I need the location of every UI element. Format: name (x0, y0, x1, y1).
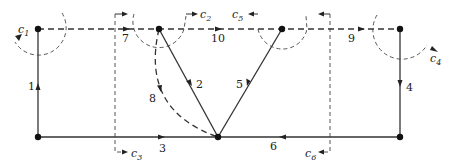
cut-set-arrows (15, 12, 438, 155)
node-4 (397, 26, 403, 32)
cut-c6-top-arrow (318, 12, 324, 17)
arrow-edge-3 (158, 135, 165, 140)
cut-label-c6: c6 (305, 147, 316, 162)
cut-label-c5: c5 (232, 8, 243, 23)
arrow-edge-6 (279, 135, 286, 140)
dashed-edge-arrows (123, 27, 365, 93)
cut-label-c3: c3 (131, 147, 142, 162)
edge-label-8: 8 (149, 92, 156, 105)
edge-label-4: 4 (406, 81, 413, 94)
cut-label-c1: c1 (18, 23, 29, 38)
cut-label-c4: c4 (430, 52, 441, 67)
arrow-edge-9 (358, 27, 365, 32)
node-7 (397, 134, 403, 140)
cut-c6-line (322, 14, 330, 152)
cut-c3-arrow (122, 150, 128, 155)
cut-set-labels: c1 c2 c3 c4 c5 c6 (18, 8, 441, 162)
edge-label-7: 7 (122, 32, 129, 45)
edge-label-1: 1 (28, 80, 35, 93)
dashed-edges (38, 29, 400, 137)
node-5 (35, 134, 41, 140)
cut-label-c2: c2 (200, 8, 211, 23)
arrow-edge-1 (36, 83, 41, 90)
node-1 (35, 26, 41, 32)
edge-label-2: 2 (196, 78, 203, 91)
edge-label-10: 10 (211, 32, 225, 45)
solid-edges (38, 29, 400, 137)
edge-5 (218, 29, 282, 137)
cut-c5-arc (258, 16, 307, 49)
arrow-edge-4 (398, 80, 403, 87)
edge-label-9: 9 (348, 32, 355, 45)
node-6 (215, 134, 221, 140)
cut-c2-arrow (192, 12, 198, 17)
edge-label-6: 6 (270, 140, 277, 153)
cut-c5-arrow (248, 12, 254, 17)
arrow-edge-7 (123, 27, 130, 32)
edge-label-5: 5 (236, 78, 243, 91)
edge-arrows (36, 79, 403, 140)
arrow-edge-10 (215, 27, 222, 32)
node-2 (156, 26, 162, 32)
edge-label-3: 3 (159, 142, 166, 155)
network-diagram: 1 2 3 4 5 6 7 8 9 10 c1 c2 c3 c4 c5 c6 (0, 0, 450, 165)
cut-c6-arrow (318, 150, 324, 155)
cut-c7-top-arrow (122, 12, 128, 17)
node-3 (279, 26, 285, 32)
